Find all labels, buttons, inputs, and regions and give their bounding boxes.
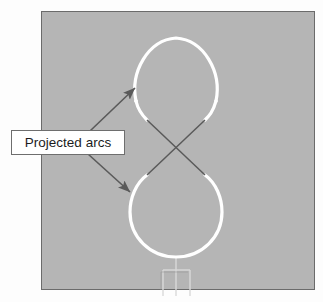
figure-canvas: Projected arcs — [0, 0, 323, 302]
projected-arcs-label: Projected arcs — [25, 136, 111, 150]
projected-arcs-callout[interactable]: Projected arcs — [11, 130, 125, 155]
arc-joint-upper-left — [134, 99, 138, 103]
arc-joint-upper-right — [214, 99, 218, 103]
